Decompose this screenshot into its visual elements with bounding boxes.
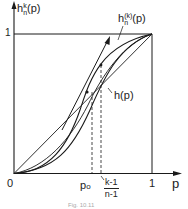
- diagram-canvas: [0, 0, 188, 209]
- curve-label-hnk-arg: (p): [132, 12, 145, 24]
- fraction-denominator: n-1: [104, 189, 119, 199]
- curve-label-h: h(p): [114, 90, 134, 101]
- y-axis-label-arg: (p): [27, 2, 40, 14]
- x-marker-p0-sub: o: [86, 182, 90, 191]
- diagonal-line: [14, 34, 152, 174]
- crossing-point-1: [85, 90, 88, 93]
- fraction-numerator: k-1: [104, 178, 119, 189]
- hnk-leader-line: [118, 26, 123, 40]
- y-axis-arrow-icon: [12, 1, 17, 9]
- figure-caption: Fig. 10.11: [68, 202, 94, 208]
- tangent-arrow-icon: [105, 36, 111, 45]
- h-leader-line: [108, 88, 112, 93]
- y-tick-one: 1: [5, 28, 11, 38]
- curve-label-hnk: h(k)n(p): [118, 12, 146, 26]
- x-marker-fraction: k-1 n-1: [104, 178, 119, 199]
- x-marker-p0: po: [80, 180, 91, 191]
- x-tick-one: 1: [149, 178, 155, 189]
- x-axis-label: p: [172, 177, 179, 190]
- x-tick-zero: 0: [7, 178, 13, 189]
- y-axis-label: hkn(p): [17, 2, 40, 16]
